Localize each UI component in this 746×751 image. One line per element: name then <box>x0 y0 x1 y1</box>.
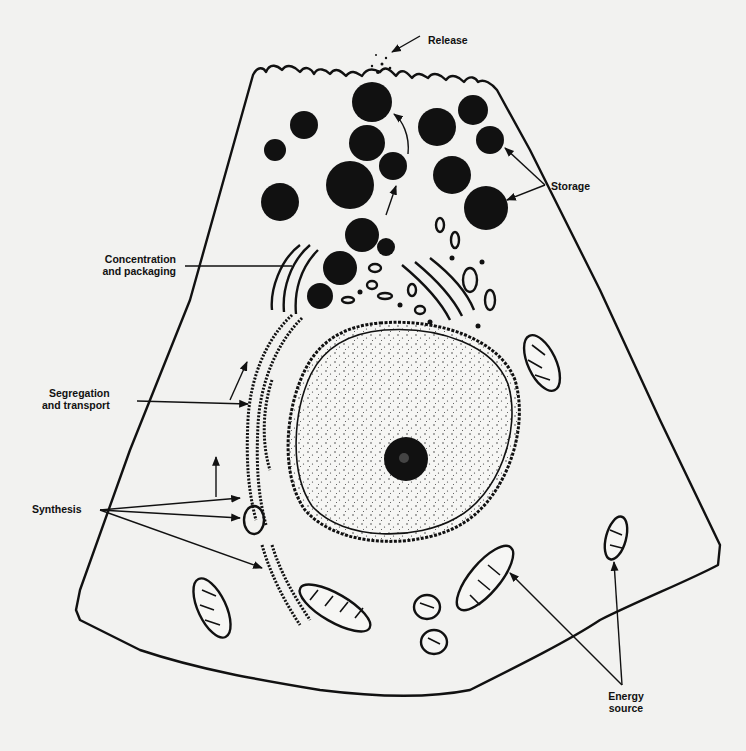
label-energy-source: Energy source <box>606 690 646 714</box>
secretory-granules <box>261 82 508 309</box>
label-synthesis: Synthesis <box>32 503 82 515</box>
label-release: Release <box>428 34 468 46</box>
label-segregation-transport: Segregation and transport <box>42 387 110 411</box>
label-concentration-packaging: Concentration and packaging <box>84 253 176 277</box>
label-storage: Storage <box>551 180 590 192</box>
golgi-apparatus <box>272 218 495 320</box>
cell-diagram <box>0 0 746 751</box>
nucleus <box>288 322 519 541</box>
